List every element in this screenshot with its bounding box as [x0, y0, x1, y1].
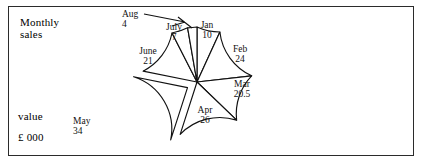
pie-label-feb: Feb24: [233, 44, 248, 64]
pie-label-may: May34: [73, 116, 91, 136]
pie-slice-may: [134, 77, 188, 140]
pie-label-mar: Mar20.5: [234, 79, 251, 99]
pie-chart-figure: Monthly sales value £ 000 Jan10Feb24Mar2…: [0, 0, 429, 167]
pie-label-aug: Aug4: [122, 9, 139, 29]
pie-chart-svg: Jan10Feb24Mar20.5Apr26May34June21July7Au…: [0, 0, 429, 167]
pie-label-jan: Jan10: [201, 20, 214, 40]
